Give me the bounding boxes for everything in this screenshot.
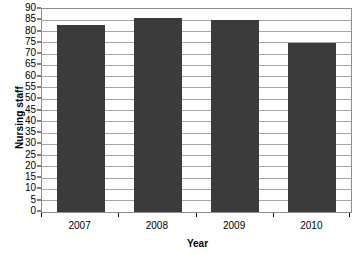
x-axis-tick-label: 2008 xyxy=(146,220,168,231)
y-axis-tick xyxy=(37,53,41,54)
y-axis-tick xyxy=(37,109,41,110)
y-axis-tick-label: 45 xyxy=(6,105,36,115)
x-axis-tick xyxy=(196,213,197,217)
x-axis-tick-label: 2007 xyxy=(69,220,91,231)
y-axis-tick-label: 50 xyxy=(6,93,36,103)
y-axis-tick xyxy=(37,86,41,87)
gridline xyxy=(42,20,351,21)
y-axis-tick-label: 35 xyxy=(6,127,36,137)
y-axis-tick xyxy=(37,120,41,121)
x-axis-tick-label: 2010 xyxy=(300,220,322,231)
y-axis-tick xyxy=(37,64,41,65)
y-axis-tick-label: 80 xyxy=(6,26,36,36)
bar xyxy=(211,20,259,212)
y-axis-tick xyxy=(37,98,41,99)
plot-area xyxy=(41,8,352,213)
y-axis-tick xyxy=(37,41,41,42)
y-axis-tick-label: 25 xyxy=(6,150,36,160)
y-axis-tick-label: 40 xyxy=(6,116,36,126)
bar xyxy=(57,25,105,212)
y-axis-tick-label: 20 xyxy=(6,161,36,171)
y-axis-tick-label: 30 xyxy=(6,138,36,148)
y-axis-tick xyxy=(37,165,41,166)
y-axis-tick-label: 55 xyxy=(6,82,36,92)
y-axis-tick xyxy=(37,211,41,212)
bar-chart: Nursing staff 05101520253035404550556065… xyxy=(0,0,359,255)
y-axis-tick xyxy=(37,75,41,76)
x-axis-tick xyxy=(41,213,42,217)
y-axis-tick-label: 0 xyxy=(6,206,36,216)
y-axis-tick-label: 60 xyxy=(6,71,36,81)
y-axis-tick xyxy=(37,177,41,178)
bar xyxy=(288,43,336,212)
y-axis-tick-label: 15 xyxy=(6,172,36,182)
x-axis-tick xyxy=(273,213,274,217)
x-axis-title: Year xyxy=(41,238,354,249)
y-axis-tick-label: 70 xyxy=(6,48,36,58)
y-axis-tick xyxy=(37,188,41,189)
y-axis-tick xyxy=(37,19,41,20)
y-axis-tick xyxy=(37,143,41,144)
x-axis-tick xyxy=(349,213,350,217)
x-axis-tick-label: 2009 xyxy=(223,220,245,231)
y-axis-tick-label: 5 xyxy=(6,195,36,205)
y-axis-tick-label: 10 xyxy=(6,183,36,193)
y-axis-tick-label: 75 xyxy=(6,37,36,47)
y-axis-tick xyxy=(37,199,41,200)
y-axis-tick xyxy=(37,8,41,9)
x-axis-tick xyxy=(118,213,119,217)
y-axis-tick-label: 90 xyxy=(6,3,36,13)
y-axis-tick-label: 65 xyxy=(6,59,36,69)
y-axis-tick xyxy=(37,154,41,155)
y-axis-tick xyxy=(37,132,41,133)
bar xyxy=(134,18,182,212)
y-axis-tick xyxy=(37,30,41,31)
y-axis-tick-label: 85 xyxy=(6,14,36,24)
